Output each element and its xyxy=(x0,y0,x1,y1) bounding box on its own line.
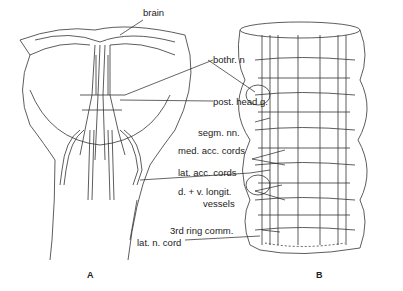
label-dv-longit: d. + v. longit. xyxy=(178,187,231,197)
label-3rd-ring-comm: 3rd ring comm. xyxy=(170,226,233,236)
label-brain: brain xyxy=(143,8,164,18)
label-lat-acc-cords: lat. acc. cords xyxy=(178,168,237,178)
panel-a-drawing xyxy=(20,27,191,260)
panel-label-b: B xyxy=(316,270,323,280)
label-lat-n-cord: lat. n. cord xyxy=(137,238,181,248)
label-vessels: vessels xyxy=(203,199,235,209)
panel-b-drawing xyxy=(238,22,367,254)
panel-label-a: A xyxy=(87,270,94,280)
label-med-acc-cords: med. acc. cords xyxy=(178,146,245,156)
label-post-head-g: post. head g. xyxy=(213,97,268,107)
label-bothr-n: bothr. n xyxy=(213,55,245,65)
label-segm-nn: segm. nn. xyxy=(198,128,240,138)
